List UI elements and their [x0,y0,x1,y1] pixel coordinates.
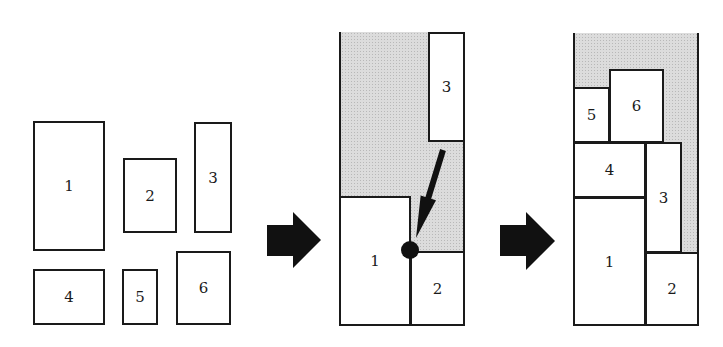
rectangle-label: 1 [370,252,380,270]
rectangle-label: 5 [135,288,145,306]
rectangle-label: 4 [605,161,615,179]
rectangle-label: 1 [64,177,74,195]
rectangle-2: 2 [645,252,699,326]
rectangle-label: 4 [64,288,74,306]
rectangle-1: 1 [573,197,646,326]
rectangle-1: 1 [33,121,105,251]
rectangle-4: 4 [573,142,646,198]
rectangle-label: 3 [442,78,452,96]
rectangle-6: 6 [176,251,231,325]
rectangle-label: 2 [145,187,155,205]
rectangle-label: 6 [199,279,209,297]
rectangle-label: 1 [605,253,615,271]
rectangle-2: 2 [123,158,177,233]
rectangle-6: 6 [609,69,664,143]
rectangle-5: 5 [122,269,158,325]
rectangle-5: 5 [573,87,610,143]
rectangle-3: 3 [645,142,682,253]
rectangle-label: 5 [587,106,597,124]
rectangle-4: 4 [33,269,105,325]
right-arrow-icon [500,212,555,270]
rectangle-2: 2 [410,251,465,326]
right-arrow-icon [267,212,321,268]
rectangle-label: 3 [208,169,218,187]
rectangle-label: 3 [659,189,669,207]
rectangle-3: 3 [194,122,232,233]
rectangle-1: 1 [339,196,411,326]
packing-diagram: 123456 123 564312 [0,0,723,347]
rectangle-3: 3 [428,32,465,142]
rectangle-label: 6 [632,97,642,115]
rectangle-label: 2 [433,280,443,298]
rectangle-label: 2 [667,280,677,298]
